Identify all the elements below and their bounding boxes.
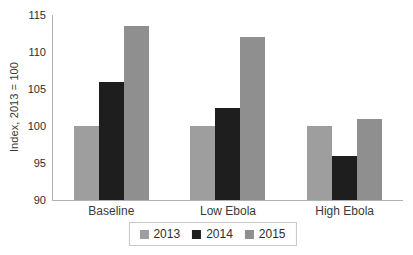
bar-2014-baseline bbox=[99, 82, 124, 200]
legend: 201320142015 bbox=[128, 222, 296, 246]
bar-2015-high-ebola bbox=[357, 119, 382, 200]
legend-item-2013: 2013 bbox=[139, 227, 180, 241]
y-axis-title: Index, 2013 = 100 bbox=[8, 62, 20, 152]
bar-2015-baseline bbox=[124, 26, 149, 200]
legend-swatch-icon bbox=[245, 230, 254, 239]
plot-area: BaselineLow EbolaHigh Ebola bbox=[52, 15, 403, 201]
y-tick-label: 90 bbox=[0, 194, 46, 206]
bar-chart-figure: Index, 2013 = 100 9095100105110115 Basel… bbox=[0, 0, 413, 255]
legend-item-2015: 2015 bbox=[245, 227, 286, 241]
legend-item-2014: 2014 bbox=[192, 227, 233, 241]
legend-swatch-icon bbox=[139, 230, 148, 239]
y-tick-label: 105 bbox=[0, 83, 46, 95]
y-tick-label: 110 bbox=[0, 46, 46, 58]
y-tick-label: 115 bbox=[0, 9, 46, 21]
x-category-label: Low Ebola bbox=[200, 204, 256, 218]
legend-label: 2014 bbox=[206, 227, 233, 241]
x-category-label: High Ebola bbox=[315, 204, 374, 218]
bar-2013-low-ebola bbox=[190, 126, 215, 200]
bar-2015-low-ebola bbox=[240, 37, 265, 200]
x-category-label: Baseline bbox=[88, 204, 134, 218]
legend-swatch-icon bbox=[192, 230, 201, 239]
legend-label: 2015 bbox=[259, 227, 286, 241]
bar-2014-high-ebola bbox=[332, 156, 357, 200]
bar-2014-low-ebola bbox=[215, 108, 240, 201]
y-tick-label: 95 bbox=[0, 157, 46, 169]
y-tick-label: 100 bbox=[0, 120, 46, 132]
bar-2013-baseline bbox=[74, 126, 99, 200]
bar-group-baseline: Baseline bbox=[74, 15, 149, 200]
bar-groups: BaselineLow EbolaHigh Ebola bbox=[53, 15, 403, 200]
bar-group-high-ebola: High Ebola bbox=[307, 15, 382, 200]
bar-2013-high-ebola bbox=[307, 126, 332, 200]
bar-group-low-ebola: Low Ebola bbox=[190, 15, 265, 200]
legend-label: 2013 bbox=[153, 227, 180, 241]
